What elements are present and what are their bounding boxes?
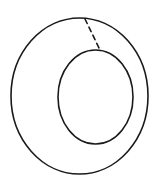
- outer-circle: [11, 18, 148, 174]
- annulus-diagram: [0, 0, 161, 193]
- figure-canvas: [0, 0, 161, 193]
- inner-circle: [58, 50, 133, 144]
- dashed-radius-line: [85, 19, 100, 50]
